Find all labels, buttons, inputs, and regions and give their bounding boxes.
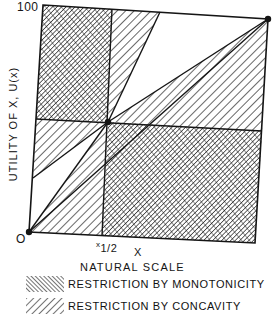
legend-label-monotonicity: RESTRICTION BY MONOTONICITY bbox=[68, 278, 265, 290]
monotonicity-region-upper-left-cross bbox=[36, 5, 112, 122]
midpoint-point bbox=[105, 119, 111, 125]
y-max-tick: 100 bbox=[17, 0, 39, 14]
monotonicity-region-lower-right-cross bbox=[102, 122, 262, 243]
x-scale-label: NATURAL SCALE bbox=[80, 261, 185, 273]
origin-point bbox=[26, 229, 32, 235]
legend-item-monotonicity: RESTRICTION BY MONOTONICITY bbox=[26, 276, 265, 292]
legend-item-concavity: RESTRICTION BY CONCAVITY bbox=[26, 298, 241, 314]
max-point bbox=[265, 16, 271, 22]
legend-label-concavity: RESTRICTION BY CONCAVITY bbox=[68, 300, 241, 312]
single-hatch-swatch-icon bbox=[26, 298, 64, 314]
x-axis-label: X bbox=[134, 246, 142, 258]
crosshatch-swatch-icon bbox=[26, 276, 64, 292]
x-half-label: x1/2 bbox=[96, 240, 117, 254]
utility-diagram bbox=[0, 0, 273, 260]
y-axis-label: UTILITY OF X, U(x) bbox=[7, 59, 19, 189]
origin-label: O bbox=[16, 232, 26, 246]
x-half-sub: 1/2 bbox=[101, 242, 118, 254]
